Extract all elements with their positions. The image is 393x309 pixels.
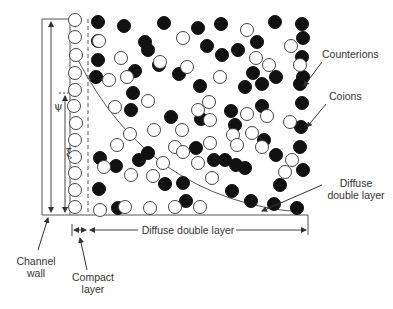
counterion [226,185,239,198]
counterion [269,16,282,29]
counterion [194,80,207,93]
coion [214,71,227,84]
coion [246,127,259,140]
coion [177,32,190,45]
compact-layer-label-line1: Compact [68,271,118,283]
zeta-symbol: ξ [66,147,72,160]
wall-ion [69,84,82,97]
counterion [245,195,258,208]
counterion [215,18,228,31]
channel-wall-label: Channel wall [13,255,59,279]
coion [192,157,205,170]
coion [231,139,244,152]
counterion [297,32,310,45]
coion [294,59,307,72]
wall-ion [69,184,82,197]
coion [286,154,299,167]
coion [279,166,292,179]
counterion [247,67,260,80]
diffuse-span-label: Diffuse double layer [140,224,236,236]
wall-ion [69,201,82,214]
counterion [296,97,309,110]
wall-ion [69,167,82,180]
compact-layer-pointer [80,238,87,270]
counterion [118,20,131,33]
coion-pointer [307,104,326,127]
coion [109,101,122,114]
coion [119,201,132,214]
wall-ion [70,117,83,130]
coion [121,71,134,84]
counterion [296,18,309,31]
wall-ion [69,67,82,80]
coion [147,170,160,183]
coion [169,201,182,214]
counterion [239,81,252,94]
wall-ion [69,31,82,44]
counterion [270,149,283,162]
coion [103,74,116,87]
counterion [110,160,123,173]
counterion [232,44,245,57]
counterion [294,141,307,154]
counterion [133,154,146,167]
compact-layer-dimension [72,224,86,236]
coion [144,202,157,215]
counterion [192,22,205,35]
counterion [230,159,243,172]
coion [154,56,167,69]
coion [98,161,111,174]
counterion [93,183,106,196]
coion [261,110,274,123]
coion [94,204,107,217]
channel-wall-label-line1: Channel [13,255,59,267]
wall-ion [69,14,82,27]
counterions-label: Counterions [322,48,379,60]
coion [115,52,128,65]
coion [111,139,124,152]
coion [284,116,297,129]
channel-wall-pointer [38,218,48,250]
coion [256,141,269,154]
coion [203,96,216,109]
counterion [127,87,140,100]
wall-ion [68,100,81,113]
counterion [190,142,203,155]
coion [157,157,170,170]
wall-ion [70,49,83,62]
coion [204,137,217,150]
counterion [165,111,178,124]
counterion [274,179,287,192]
coion [93,35,106,48]
diffuse-layer-label: Diffuse double layer [320,177,392,201]
counterion [90,71,103,84]
counterion [142,44,155,57]
coion [142,95,155,108]
compact-layer-label-line2: layer [68,283,118,295]
compact-layer-label: Compact layer [68,271,118,295]
counterion [216,49,229,62]
counterion [291,202,304,215]
counterion [251,36,264,49]
coion [285,40,298,53]
coion [181,61,194,74]
coion [125,169,138,182]
coion [206,172,219,185]
coion [263,59,276,72]
counterion [294,78,307,91]
coions-label: Coions [329,90,362,102]
coion [194,201,207,214]
counterion [225,105,238,118]
wall-ion [69,134,82,147]
coion [148,124,161,137]
counterion [159,178,172,191]
diffuse-layer-label-line2: double layer [320,189,392,201]
counterion [92,16,105,29]
counterion [158,17,171,30]
coion [241,24,254,37]
counterion [270,71,283,84]
coion [192,104,205,117]
coion [204,114,217,127]
counterion [92,54,105,67]
diffuse-layer-label-line1: Diffuse [320,177,392,189]
